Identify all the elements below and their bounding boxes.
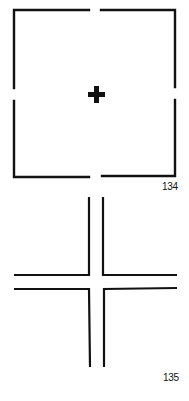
plus-icon [88,86,105,103]
square-bottom-right-corner [102,100,175,176]
cross-top-right-corner [103,197,177,275]
cross-top-left-corner [14,197,89,275]
cross-bottom-right-corner [104,288,177,367]
figure-label-135: 135 [163,372,179,383]
square-top-left-corner [14,10,89,88]
square-top-right-corner [101,10,175,87]
square-bottom-left-corner [14,101,89,177]
figure-135-cross [14,197,177,367]
figure-label-134: 134 [162,181,178,192]
diagram-canvas [0,0,189,401]
cross-bottom-left-corner [14,289,90,367]
